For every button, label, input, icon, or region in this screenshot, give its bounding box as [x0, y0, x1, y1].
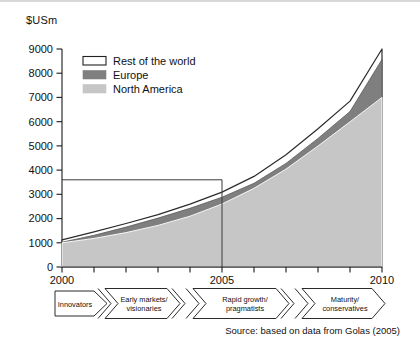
- stage-label-maturity-line2: conservatives: [322, 304, 367, 313]
- stage-label-innovators: Innovators: [58, 300, 93, 309]
- legend-label-europe: Europe: [113, 69, 148, 81]
- chart-legend: Rest of the world Europe North America: [83, 55, 196, 95]
- y-tick-label: 8000: [29, 67, 53, 79]
- adoption-stage-arrows: Innovators Early markets/ visionaries Ra…: [55, 289, 385, 319]
- y-axis: 0 1000 2000 3000 4000 5000 6000 7000 800…: [29, 43, 62, 273]
- source-note: Source: based on data from Golas (2005): [225, 325, 400, 336]
- y-tick-label: 7000: [29, 91, 53, 103]
- stage-arrow-innovators: Innovators: [55, 291, 107, 316]
- stage-label-early-markets-line2: visionaries: [127, 304, 162, 313]
- stage-arrow-rapid-growth: Rapid growth/ pragmatists: [193, 289, 289, 319]
- legend-swatch-rest-of-the-world: [83, 57, 106, 66]
- stage-label-rapid-growth-line2: pragmatists: [226, 304, 265, 313]
- stage-label-rapid-growth-line1: Rapid growth/: [222, 295, 269, 304]
- legend-swatch-north-america: [83, 85, 106, 94]
- stacked-area-chart: 0 1000 2000 3000 4000 5000 6000 7000 800…: [0, 2, 420, 344]
- legend-label-north-america: North America: [113, 83, 184, 95]
- y-tick-label: 5000: [29, 140, 53, 152]
- stage-arrow-maturity: Maturity/ conservatives: [302, 289, 385, 319]
- x-tick-label-2005: 2005: [210, 274, 234, 286]
- y-tick-label: 4000: [29, 164, 53, 176]
- y-tick-label: 2000: [29, 212, 53, 224]
- stage-label-early-markets-line1: Early markets/: [120, 295, 168, 304]
- y-tick-label: 6000: [29, 116, 53, 128]
- x-tick-label-2000: 2000: [50, 274, 74, 286]
- y-tick-label: 9000: [29, 43, 53, 55]
- y-tick-label: 3000: [29, 188, 53, 200]
- legend-label-rest-of-the-world: Rest of the world: [113, 55, 196, 67]
- legend-swatch-europe: [83, 71, 106, 80]
- x-tick-label-2010: 2010: [370, 274, 394, 286]
- y-tick-label: 0: [47, 261, 53, 273]
- chart-figure: $USm 0 1000 2000 3000 4000 5000 6000 700…: [0, 0, 420, 344]
- x-axis: 2000 2005 2010: [50, 267, 394, 286]
- y-tick-label: 1000: [29, 237, 53, 249]
- stage-arrow-early-markets: Early markets/ visionaries: [105, 289, 180, 319]
- stage-label-maturity-line1: Maturity/: [331, 295, 360, 304]
